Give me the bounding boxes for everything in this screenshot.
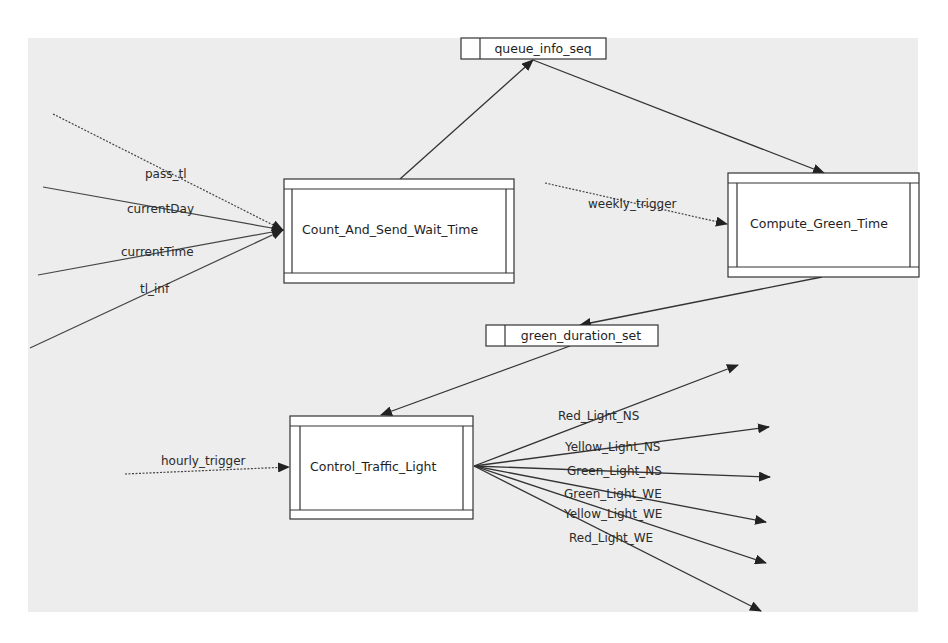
flow-hourly-trigger[interactable]: hourly_trigger (125, 454, 289, 474)
process-label-control: Control_Traffic_Light (310, 459, 437, 474)
flow-label-green-light-ns: Green_Light_NS (567, 464, 662, 478)
flow-label-pass-tl: pass_tl (145, 167, 187, 181)
flow-label-tl-inf: tl_inf (140, 282, 170, 296)
process-count-and-send-wait-time[interactable]: Count_And_Send_Wait_Time (284, 179, 514, 283)
process-label-count: Count_And_Send_Wait_Time (302, 222, 479, 237)
flow-label-current-day: currentDay (127, 202, 194, 216)
store-green-duration-set[interactable]: green_duration_set (486, 325, 658, 346)
flow-yellow-light-ns[interactable]: Yellow_Light_NS (474, 427, 769, 466)
flow-weekly-trigger[interactable]: weekly_trigger (545, 183, 727, 224)
flow-label-green-light-we: Green_Light_WE (564, 487, 662, 501)
store-label-queue-info-seq: queue_info_seq (494, 41, 591, 56)
flow-current-time[interactable]: currentTime (38, 230, 283, 275)
flow-queue-to-compute[interactable] (533, 60, 824, 173)
flow-yellow-light-we[interactable]: Yellow_Light_WE (474, 466, 766, 563)
process-control-traffic-light[interactable]: Control_Traffic_Light (290, 416, 473, 519)
flow-count-to-queue[interactable] (400, 60, 533, 179)
flow-label-weekly-trigger: weekly_trigger (588, 197, 677, 211)
flow-label-yellow-light-ns: Yellow_Light_NS (564, 440, 660, 454)
flow-label-current-time: currentTime (121, 245, 194, 259)
store-queue-info-seq[interactable]: queue_info_seq (461, 38, 606, 59)
store-label-green-duration-set: green_duration_set (521, 328, 641, 343)
flow-label-red-light-ns: Red_Light_NS (558, 409, 639, 423)
process-compute-green-time[interactable]: Compute_Green_Time (728, 173, 919, 277)
flow-label-red-light-we: Red_Light_WE (569, 531, 653, 545)
process-label-compute: Compute_Green_Time (750, 216, 888, 231)
flow-compute-to-green[interactable] (580, 277, 822, 325)
flow-current-day[interactable]: currentDay (43, 187, 283, 230)
diagram-canvas: pass_tl currentDay currentTime tl_inf we… (0, 0, 948, 643)
flow-green-to-control[interactable] (381, 346, 570, 415)
flow-label-hourly-trigger: hourly_trigger (161, 454, 246, 468)
flow-green-light-ns[interactable]: Green_Light_NS (474, 464, 770, 478)
diagram-svg: pass_tl currentDay currentTime tl_inf we… (0, 0, 948, 643)
